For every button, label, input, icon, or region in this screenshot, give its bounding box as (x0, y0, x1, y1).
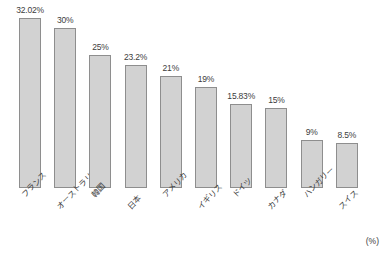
bar (265, 108, 287, 188)
bar (54, 28, 76, 188)
bar-value-label: 8.5% (325, 131, 369, 140)
category-label: カナダ (266, 188, 289, 211)
bar-value-label: 23.2% (114, 53, 158, 62)
bar (19, 18, 41, 188)
bar-chart: 32.02%フランス30%オーストラリア25%韓国23.2%日本21%アメリカ1… (0, 0, 385, 254)
category-label: スイス (337, 188, 360, 211)
bar (336, 143, 358, 188)
bar (195, 87, 217, 188)
bar-value-label: 19% (184, 75, 228, 84)
bar-value-label: 30% (43, 16, 87, 25)
unit-note: (%) (366, 237, 379, 246)
bar-value-label: 15% (254, 96, 298, 105)
bar-value-label: 32.02% (8, 6, 52, 15)
bar (160, 76, 182, 188)
category-label: 日本 (126, 194, 143, 211)
bar-value-label: 25% (78, 43, 122, 52)
plot-area: 32.02%フランス30%オーストラリア25%韓国23.2%日本21%アメリカ1… (0, 0, 385, 254)
bar-value-label: 21% (149, 64, 193, 73)
bar (89, 55, 111, 188)
bar (125, 65, 147, 188)
bar (230, 104, 252, 188)
